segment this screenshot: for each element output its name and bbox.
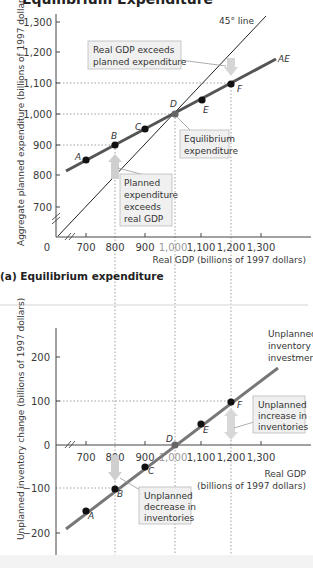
x-tick-zero-a: 0: [44, 242, 50, 253]
y-tick-b: −200: [23, 528, 50, 539]
x-tick-b: 1,100: [187, 452, 216, 463]
figure-title: Equilibrium Expenditure: [22, 0, 213, 7]
increase-arrow: [224, 408, 238, 440]
svg-text:inventories: inventories: [258, 422, 309, 432]
point-d: [171, 110, 178, 117]
point-label-d: D: [170, 99, 177, 109]
svg-text:investment: investment: [268, 353, 313, 363]
y-tick-b: 200: [31, 352, 50, 363]
x-tick-a: 1,100: [187, 242, 216, 253]
svg-text:exceeds: exceeds: [124, 202, 161, 212]
point-e: [198, 96, 205, 103]
point-f: [227, 398, 234, 405]
x-tick-b: 900: [135, 452, 154, 463]
y-tick-a: 900: [33, 140, 52, 151]
ae-label: AE: [277, 54, 290, 64]
point-label-b: B: [111, 131, 117, 141]
svg-text:Real GDP exceeds: Real GDP exceeds: [93, 45, 175, 55]
x-tick-b: 1,200: [217, 452, 246, 463]
note-unplanned-inventory-investment: Unplanned inventory investment: [268, 329, 313, 368]
point-label-e: E: [203, 425, 209, 435]
svg-text:decrease in: decrease in: [144, 502, 196, 512]
point-label-a: A: [74, 152, 81, 162]
gap-arrow-down: [224, 58, 238, 76]
point-f: [227, 80, 234, 87]
note-unplanned-increase: Unplanned increase in inventories: [234, 396, 309, 433]
ae-line: [66, 59, 276, 171]
x-tick-a: 700: [76, 242, 95, 253]
svg-text:expenditure: expenditure: [124, 190, 179, 200]
x-axis-label-b-line2: (billions of 1997 dollars): [197, 481, 306, 491]
x-tick-a: 1,000: [159, 242, 188, 253]
y-tick-b: 0: [44, 440, 50, 451]
y-tick-a: 1,200: [23, 47, 52, 58]
svg-text:Equilibrium: Equilibrium: [184, 134, 235, 144]
panel-b: Unplanned inventory change (billions of …: [16, 298, 313, 558]
x-tick-a: 800: [105, 242, 124, 253]
bottom-shadow: [0, 555, 313, 568]
note-unplanned-decrease: Unplanned decrease in inventories: [120, 478, 196, 524]
x-tick-b: 700: [76, 452, 95, 463]
x-tick-a: 1,200: [217, 242, 246, 253]
x-tick-a: 900: [135, 242, 154, 253]
forty-five-line-label: 45° line: [219, 16, 255, 26]
y-tick-a: 1,100: [23, 78, 52, 89]
x-axis-label-b-line1: Real GDP: [264, 469, 306, 479]
point-c: [141, 125, 148, 132]
axis-break-marks-a: [52, 213, 75, 240]
point-a: [82, 156, 89, 163]
svg-text:inventory: inventory: [268, 341, 312, 351]
y-tick-a: 800: [33, 170, 52, 181]
note-planned-exceeds: Planned expenditure exceeds real GDP: [118, 168, 179, 226]
y-tick-b: −100: [23, 483, 50, 494]
y-tick-a: 1,300: [23, 17, 52, 28]
y-tick-a: 1,000: [23, 109, 52, 120]
y-axis-label-b: Unplanned inventory change (billions of …: [16, 298, 26, 540]
svg-text:real GDP: real GDP: [124, 214, 164, 224]
svg-text:Planned: Planned: [124, 178, 160, 188]
point-label-f: F: [237, 84, 243, 94]
svg-text:planned expenditure: planned expenditure: [93, 57, 187, 67]
y-tick-b: 100: [31, 396, 50, 407]
svg-text:Unplanned: Unplanned: [258, 400, 307, 410]
point-label-d: D: [166, 434, 173, 444]
point-b: [111, 141, 118, 148]
x-tick-a: 1,300: [247, 242, 276, 253]
equilibrium-expenditure-figure: Equilibrium Expenditure Aggregate planne…: [0, 0, 313, 568]
x-axis-label-a: Real GDP (billions of 1997 dollars): [153, 255, 306, 265]
svg-text:Unplanned: Unplanned: [144, 491, 193, 501]
point-label-c: C: [148, 466, 155, 476]
y-axis-label-a: Aggregate planned expenditure (billions …: [16, 0, 26, 246]
svg-text:Unplanned: Unplanned: [268, 329, 313, 339]
point-label-a: A: [87, 511, 94, 521]
y-tick-a: 700: [33, 202, 52, 213]
point-label-f: F: [237, 400, 243, 410]
svg-text:inventories: inventories: [144, 513, 195, 523]
point-label-c: C: [135, 122, 142, 132]
x-tick-b: 1,300: [247, 452, 276, 463]
note-equilibrium: Equilibrium expenditure: [177, 117, 239, 158]
svg-text:expenditure: expenditure: [184, 146, 239, 156]
panel-a-caption: (a) Equilibrium expenditure: [0, 270, 164, 282]
point-label-e: E: [203, 105, 209, 115]
svg-text:increase in: increase in: [258, 411, 307, 421]
note-real-gdp-exceeds: Real GDP exceeds planned expenditure: [88, 41, 226, 69]
point-label-b: B: [117, 489, 123, 499]
